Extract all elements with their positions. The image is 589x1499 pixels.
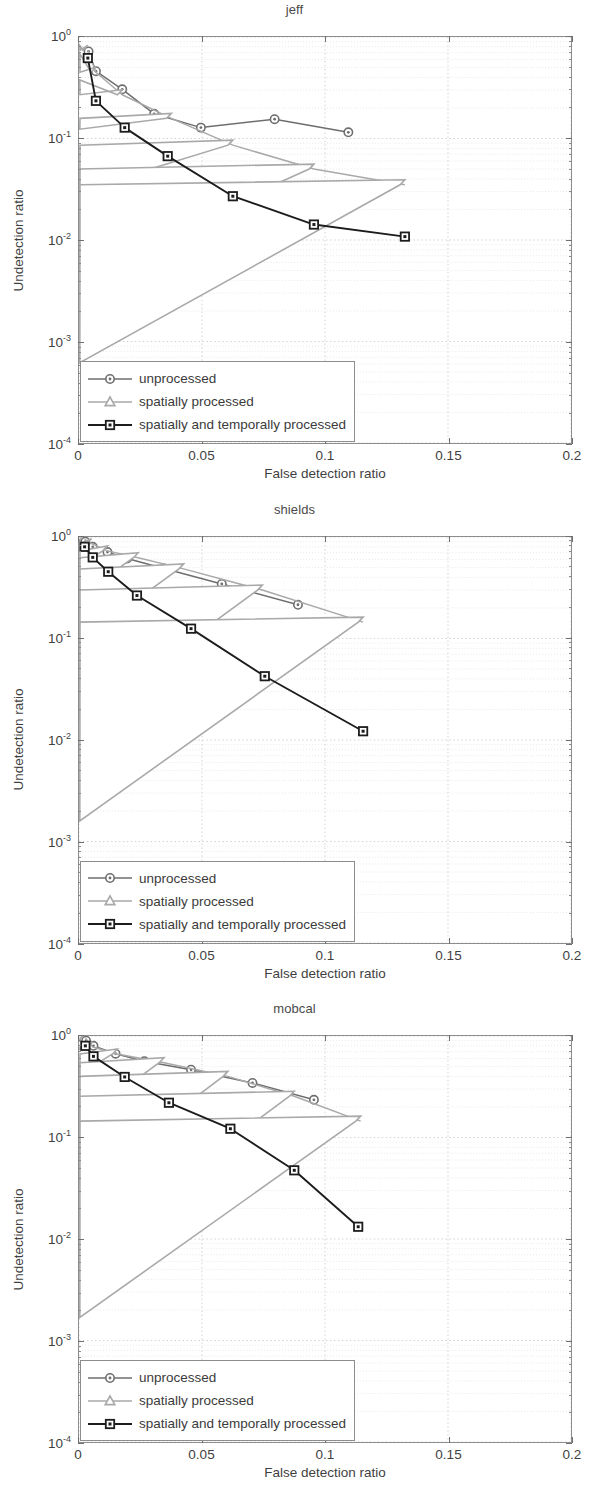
y-minor-tick <box>78 1255 81 1256</box>
legend-item-circle: unprocessed <box>87 1366 346 1389</box>
y-minor-tick <box>78 1208 81 1209</box>
y-axis-title: Undetection ratio <box>8 536 28 944</box>
y-minor-tick-right <box>569 143 572 144</box>
y-minor-tick-right <box>569 1346 572 1347</box>
x-tick-top <box>325 536 326 542</box>
y-minor-tick-right <box>569 161 572 162</box>
y-tick-right <box>566 444 572 445</box>
x-tick-top <box>325 1035 326 1041</box>
y-minor-tick <box>78 1076 81 1077</box>
y-minor-tick-right <box>569 872 572 873</box>
y-minor-tick <box>78 46 81 47</box>
y-tick-label: 10-2 <box>48 233 78 248</box>
y-minor-tick <box>78 589 81 590</box>
legend-label: spatially and temporally processed <box>139 917 346 932</box>
y-minor-tick-right <box>569 1142 572 1143</box>
y-minor-tick <box>78 1106 81 1107</box>
y-tick-right <box>566 1443 572 1444</box>
x-tick-label: 0.2 <box>563 1447 582 1462</box>
x-tick <box>78 938 79 944</box>
x-tick-top <box>325 36 326 42</box>
y-minor-tick-right <box>569 660 572 661</box>
chart-title: mobcal <box>0 1001 589 1016</box>
x-tick-label: 0.05 <box>188 1447 214 1462</box>
y-minor-tick-right <box>569 1412 572 1413</box>
legend: unprocessedspatially processedspatially … <box>80 861 355 942</box>
y-tick-label: 100 <box>51 29 78 44</box>
y-minor-tick-right <box>569 1160 572 1161</box>
legend-item-triangle: spatially processed <box>87 1389 346 1412</box>
y-minor-tick-right <box>569 293 572 294</box>
y-minor-tick-right <box>569 1244 572 1245</box>
y-minor-tick-right <box>569 851 572 852</box>
x-tick-label: 0.1 <box>316 1447 335 1462</box>
y-minor-tick-right <box>569 1076 572 1077</box>
legend-marker-circle-icon <box>87 870 133 886</box>
legend-item-square: spatially and temporally processed <box>87 913 346 936</box>
y-minor-tick <box>78 1142 81 1143</box>
y-minor-tick <box>78 148 81 149</box>
chart-mobcal: mobcalUndetection ratio10010-110-210-310… <box>0 999 589 1499</box>
y-minor-tick-right <box>569 882 572 883</box>
y-minor-tick <box>78 607 81 608</box>
y-minor-tick-right <box>569 154 572 155</box>
y-tick-label: 100 <box>51 1028 78 1043</box>
y-minor-tick-right <box>569 67 572 68</box>
chart-shields: shieldsUndetection ratio10010-110-210-31… <box>0 500 589 1000</box>
chart-title: shields <box>0 502 589 517</box>
y-minor-tick-right <box>569 191 572 192</box>
y-minor-tick-right <box>569 780 572 781</box>
legend-marker-square-icon <box>87 1416 133 1432</box>
y-minor-tick <box>78 250 81 251</box>
y-minor-tick <box>78 811 81 812</box>
y-minor-tick <box>78 851 81 852</box>
y-minor-tick <box>78 647 81 648</box>
legend-marker-circle-icon <box>87 371 133 387</box>
y-minor-tick-right <box>569 857 572 858</box>
y-tick-label: 100 <box>51 528 78 543</box>
y-minor-tick-right <box>569 691 572 692</box>
y-tick <box>78 138 84 139</box>
y-tick <box>78 740 84 741</box>
legend-marker-triangle-icon <box>87 1393 133 1409</box>
chart-title: jeff <box>0 2 589 17</box>
y-minor-tick-right <box>569 1208 572 1209</box>
x-tick <box>449 1437 450 1443</box>
x-tick <box>572 1437 573 1443</box>
x-axis-title: False detection ratio <box>78 1465 572 1480</box>
legend-marker-triangle-icon <box>87 394 133 410</box>
y-tick-right <box>566 1341 572 1342</box>
y-tick-right <box>566 638 572 639</box>
plot-wrap: 10010-110-210-310-400.050.10.150.2False … <box>78 36 572 444</box>
y-minor-tick-right <box>569 89 572 90</box>
y-minor-tick <box>78 780 81 781</box>
y-tick <box>78 444 84 445</box>
x-tick <box>572 438 573 444</box>
x-tick-label: 0.15 <box>435 948 461 963</box>
legend-label: spatially and temporally processed <box>139 417 346 432</box>
y-minor-tick-right <box>569 1270 572 1271</box>
y-minor-tick <box>78 1191 81 1192</box>
legend-label: unprocessed <box>139 871 216 886</box>
y-minor-tick <box>78 749 81 750</box>
y-minor-tick <box>78 169 81 170</box>
y-minor-tick-right <box>569 169 572 170</box>
y-minor-tick-right <box>569 52 572 53</box>
x-tick-top <box>202 536 203 542</box>
y-minor-tick-right <box>569 1280 572 1281</box>
y-minor-tick <box>78 1357 81 1358</box>
y-minor-tick-right <box>569 1066 572 1067</box>
y-minor-tick-right <box>569 1178 572 1179</box>
x-tick-label: 0 <box>74 948 82 963</box>
y-tick-right <box>566 1239 572 1240</box>
y-minor-tick <box>78 154 81 155</box>
y-tick-label: 10-1 <box>48 1130 78 1145</box>
legend-item-triangle: spatially processed <box>87 890 346 913</box>
y-minor-tick-right <box>569 1395 572 1396</box>
y-minor-tick-right <box>569 755 572 756</box>
y-minor-tick-right <box>569 576 572 577</box>
legend-item-circle: unprocessed <box>87 367 346 390</box>
y-minor-tick <box>78 358 81 359</box>
y-minor-tick-right <box>569 709 572 710</box>
y-minor-tick-right <box>569 209 572 210</box>
